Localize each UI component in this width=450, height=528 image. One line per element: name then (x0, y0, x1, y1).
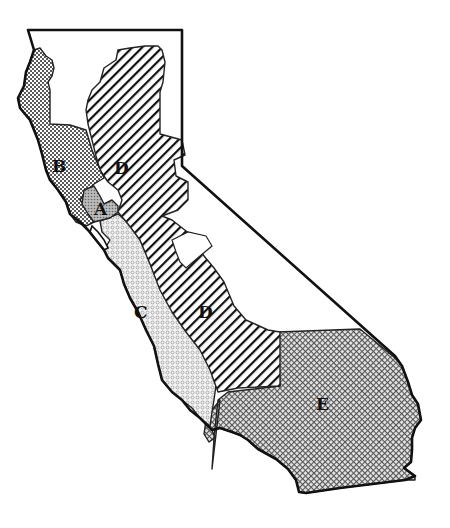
region-label-a: A (93, 199, 108, 219)
region-label-d-south: D (198, 302, 213, 322)
region-label-d: D (114, 158, 129, 178)
region-label-b: B (52, 156, 66, 176)
region-label-e: E (316, 394, 329, 414)
region-label-c: C (134, 302, 148, 322)
california-region-map: B D A C D E (0, 0, 450, 528)
